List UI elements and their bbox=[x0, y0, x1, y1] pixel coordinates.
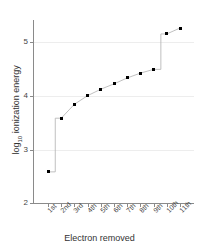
series-line bbox=[0, 0, 199, 252]
y-axis-title: log10 ionization energy bbox=[11, 35, 23, 185]
data-point bbox=[99, 88, 102, 91]
data-point bbox=[86, 94, 89, 97]
data-point bbox=[165, 32, 168, 35]
y-axis-title-subscript: 10 bbox=[17, 136, 23, 143]
ionization-energy-chart: 5 4 3 2 1st2nd3rd4th5th6th7th8th9th10th1… bbox=[0, 0, 199, 252]
data-point bbox=[60, 117, 63, 120]
data-point bbox=[73, 103, 76, 106]
x-axis-title: Electron removed bbox=[0, 233, 199, 243]
data-point bbox=[113, 82, 116, 85]
y-axis-title-main: ionization energy bbox=[11, 65, 21, 133]
data-point bbox=[126, 76, 129, 79]
y-axis-title-prefix: log bbox=[11, 143, 21, 155]
data-point bbox=[152, 68, 155, 71]
data-point bbox=[47, 170, 50, 173]
data-point bbox=[179, 27, 182, 30]
data-point bbox=[139, 72, 142, 75]
